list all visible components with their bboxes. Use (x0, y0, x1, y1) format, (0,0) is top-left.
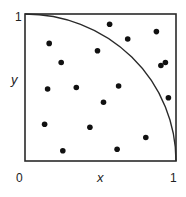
point-dot (114, 146, 120, 152)
x-max-tick-label: 1 (170, 171, 177, 185)
point-dot (87, 124, 93, 130)
y-axis-label: y (10, 72, 19, 87)
point-dot (45, 86, 51, 92)
point-dot (154, 29, 160, 35)
point-dot (125, 36, 131, 42)
x-axis-label: x (96, 170, 104, 185)
point-dot (42, 122, 48, 128)
point-dot (101, 99, 107, 105)
point-dot (95, 48, 101, 54)
y-max-tick-label: 1 (15, 10, 22, 24)
random-points (42, 22, 171, 154)
point-dot (58, 60, 64, 66)
point-dot (74, 85, 80, 91)
point-dot (143, 135, 149, 141)
point-dot (116, 83, 122, 89)
point-dot (46, 41, 52, 47)
point-dot (107, 22, 113, 28)
point-dot (163, 60, 169, 66)
origin-tick-label: 0 (16, 171, 23, 185)
point-dot (166, 95, 172, 101)
monte-carlo-diagram: 1 y 0 x 1 (0, 0, 186, 197)
point-dot (60, 148, 66, 154)
